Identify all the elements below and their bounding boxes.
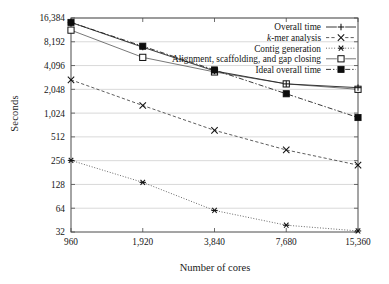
data-point-marker <box>283 91 289 97</box>
series-line <box>71 160 358 231</box>
y-axis-tick-label: 4,096 <box>44 61 65 71</box>
data-point-marker <box>140 54 146 60</box>
y-axis-tick-label: 1,024 <box>44 109 65 119</box>
x-axis-tick-label: 3,840 <box>204 237 225 247</box>
y-axis-tick-label: 32 <box>56 227 66 237</box>
data-point-marker <box>211 67 217 73</box>
legend-label: k-mer analysis <box>267 33 321 43</box>
y-axis-tick-label: 64 <box>56 204 66 214</box>
y-axis-tick-label: 16,384 <box>39 13 65 23</box>
x-axis-tick-label: 960 <box>64 237 78 247</box>
data-point-marker <box>355 114 361 120</box>
legend-label: Ideal overall time <box>255 65 321 75</box>
y-axis-tick-label: 128 <box>51 180 65 190</box>
legend-label: Overall time <box>274 22 321 32</box>
legend-label: Alignment, scaffolding, and gap closing <box>172 54 321 64</box>
data-point-marker <box>68 19 74 25</box>
chart-figure: Seconds Number of cores 16,3848,1924,096… <box>0 0 389 284</box>
y-axis-tick-label: 512 <box>51 132 65 142</box>
x-axis-tick-label: 15,360 <box>345 237 371 247</box>
y-axis-tick-label: 2,048 <box>44 85 65 95</box>
legend-label: Contig generation <box>254 44 321 54</box>
y-axis-title: Seconds <box>9 74 20 154</box>
x-axis-tick-label: 1,920 <box>132 237 153 247</box>
x-axis-title: Number of cores <box>70 262 360 273</box>
legend-filled-square-marker <box>338 66 344 72</box>
series-line <box>71 80 358 165</box>
plot-area: 16,3848,1924,0962,0481,02451225612864329… <box>0 0 389 284</box>
y-axis-tick-label: 256 <box>51 156 65 166</box>
x-axis-tick-label: 7,680 <box>276 237 297 247</box>
y-axis-tick-label: 8,192 <box>44 37 65 47</box>
data-point-marker <box>140 43 146 49</box>
legend-open-square-marker <box>338 56 344 62</box>
data-point-marker <box>68 27 74 33</box>
